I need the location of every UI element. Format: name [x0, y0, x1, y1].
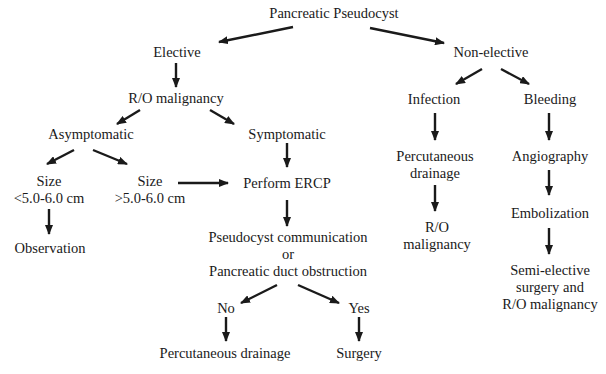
arrow-communication-to-yes: [298, 285, 339, 303]
node-label: Surgery: [336, 345, 382, 362]
node-label: R/O malignancy: [128, 90, 223, 107]
node-surgery: Surgery: [336, 345, 382, 362]
node-label: Symptomatic: [248, 126, 325, 143]
node-asymptomatic: Asymptomatic: [48, 126, 133, 143]
node-perform-ercp: Perform ERCP: [243, 175, 330, 192]
node-infection: Infection: [408, 91, 460, 108]
node-label-line-2: malignancy: [403, 236, 471, 253]
node-non-elective: Non-elective: [454, 44, 529, 61]
node-label: Elective: [153, 44, 201, 61]
node-label-line-3: Pancreatic duct obstruction: [208, 263, 367, 280]
node-embolization: Embolization: [511, 205, 589, 222]
node-pancreatic-pseudocyst: Pancreatic Pseudocyst: [269, 5, 398, 22]
node-ro-malignancy-elective: R/O malignancy: [128, 90, 223, 107]
node-percutaneous-drainage-non-elective: Percutaneous drainage: [396, 148, 473, 182]
node-ro-malignancy-non-elective: R/O malignancy: [403, 219, 471, 253]
node-label-line-2: <5.0-6.0 cm: [14, 190, 85, 207]
node-label: Percutaneous drainage: [160, 345, 291, 362]
arrow-non-elective-to-bleeding: [501, 69, 529, 84]
node-label: Pancreatic Pseudocyst: [269, 5, 398, 22]
node-label-line-1: Size: [14, 173, 85, 190]
node-label: Observation: [15, 240, 86, 257]
node-label: Non-elective: [454, 44, 529, 61]
node-label-line-3: R/O malignancy: [502, 296, 597, 313]
node-yes: Yes: [348, 300, 369, 317]
node-label-line-2: surgery and: [502, 279, 597, 296]
node-label-line-2: drainage: [396, 165, 473, 182]
pancreatic-pseudocyst-flowchart: Pancreatic Pseudocyst Elective R/O malig…: [0, 0, 606, 374]
node-symptomatic: Symptomatic: [248, 126, 325, 143]
node-label: Asymptomatic: [48, 126, 133, 143]
node-label-line-2: or: [208, 246, 367, 263]
arrow-non-elective-to-infection: [456, 69, 482, 84]
node-label-line-1: Percutaneous: [396, 148, 473, 165]
arrow-asymptomatic-to-size-small: [47, 150, 74, 164]
node-label: No: [217, 300, 235, 317]
node-label: Angiography: [512, 148, 589, 165]
node-semi-elective-surgery: Semi-elective surgery and R/O malignancy: [502, 262, 597, 313]
node-label-line-1: Pseudocyst communication: [208, 229, 367, 246]
arrow-ro-to-asymptomatic: [117, 110, 140, 124]
arrow-asymptomatic-to-size-large: [93, 150, 127, 164]
node-label: Embolization: [511, 205, 589, 222]
arrow-communication-to-no: [241, 285, 277, 303]
node-observation: Observation: [15, 240, 86, 257]
node-bleeding: Bleeding: [524, 91, 576, 108]
arrow-ro-to-symptomatic: [210, 110, 234, 124]
arrow-root-to-elective: [219, 27, 293, 42]
node-label: Infection: [408, 91, 460, 108]
node-size-large: Size >5.0-6.0 cm: [115, 173, 186, 207]
node-elective: Elective: [153, 44, 201, 61]
node-label: Yes: [348, 300, 369, 317]
node-percutaneous-drainage-elective: Percutaneous drainage: [160, 345, 291, 362]
node-label-line-1: R/O: [403, 219, 471, 236]
node-communication-or-obstruction: Pseudocyst communication or Pancreatic d…: [208, 229, 367, 280]
arrow-root-to-non-elective: [370, 28, 444, 43]
node-label-line-1: Semi-elective: [502, 262, 597, 279]
node-no: No: [217, 300, 235, 317]
node-angiography: Angiography: [512, 148, 589, 165]
node-label: Perform ERCP: [243, 175, 330, 192]
node-label-line-2: >5.0-6.0 cm: [115, 190, 186, 207]
node-label: Bleeding: [524, 91, 576, 108]
node-label-line-1: Size: [115, 173, 186, 190]
node-size-small: Size <5.0-6.0 cm: [14, 173, 85, 207]
